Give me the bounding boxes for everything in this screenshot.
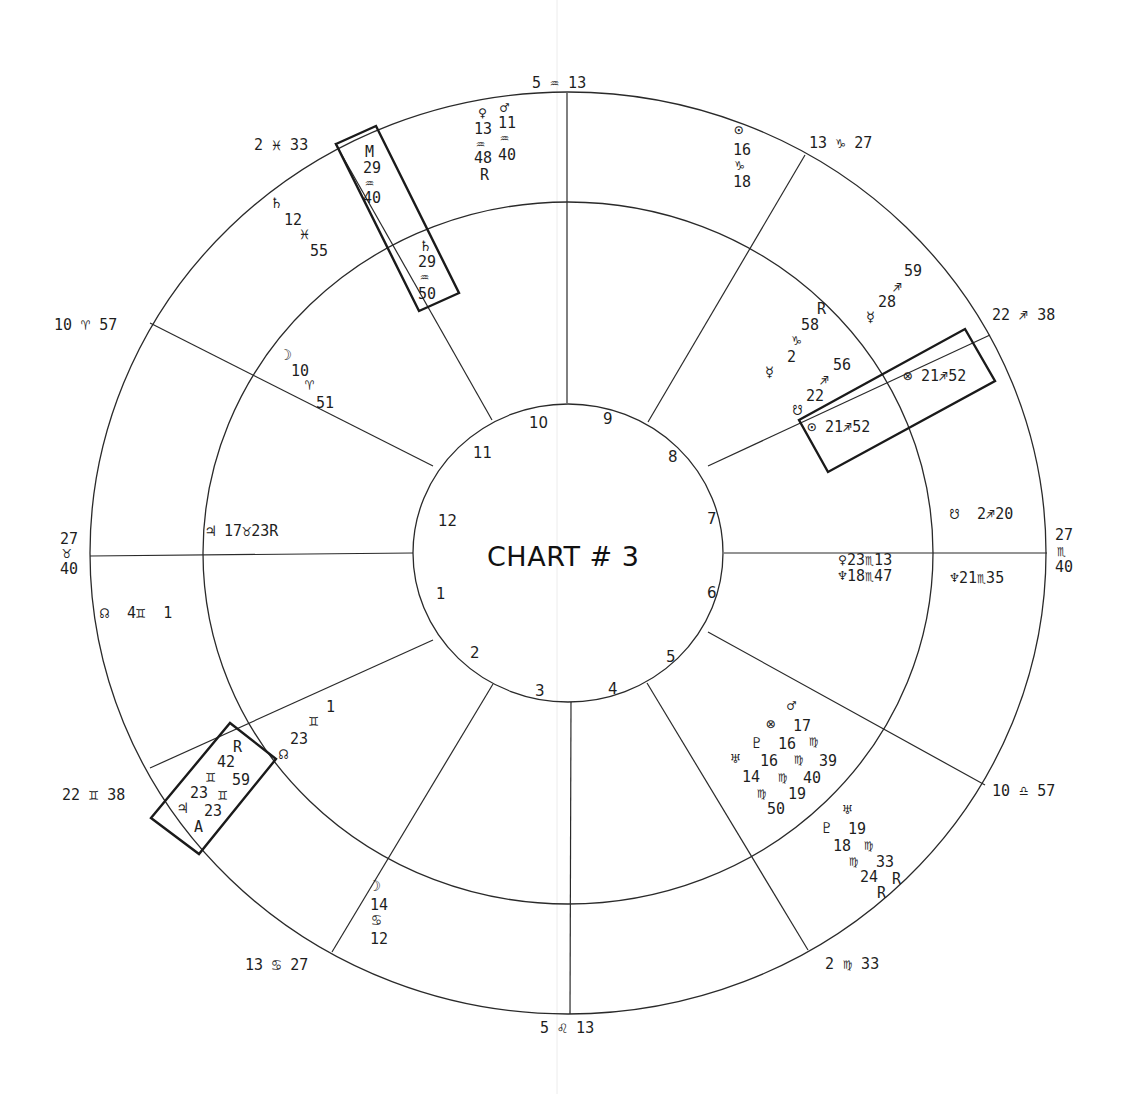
house-number-1: 1 xyxy=(436,585,446,603)
house-number-3: 3 xyxy=(535,682,545,700)
pluto-outer-min: 24 xyxy=(860,868,878,886)
pluto-outer-retro: R xyxy=(877,884,887,902)
saturn-inner-min: 50 xyxy=(418,285,436,303)
uranus-lower-glyph: ♅ xyxy=(731,750,740,768)
asc-point-glyph: A xyxy=(194,818,203,836)
pluto-outer-sign: ♍ xyxy=(849,852,858,870)
sun-inner: ⊙ 21♐52 xyxy=(807,418,870,436)
cusp-line-2 xyxy=(648,155,805,422)
house-number-6: 6 xyxy=(707,584,717,602)
node-inner-min: 56 xyxy=(833,356,851,374)
jupiter-outer-min2: 59 xyxy=(232,771,250,789)
cusp-8: 10 ♈ 57 xyxy=(54,316,117,334)
jupiter-inner: ♃ 17♉23R xyxy=(206,522,279,540)
highlight-boxes xyxy=(151,126,995,854)
neptune-inner: ♆18♏47 xyxy=(838,567,892,585)
fortune-lower-sign: ♍ xyxy=(757,784,766,802)
neptune-outer: ♆21♏35 xyxy=(950,569,1004,587)
uranus-lower-sign: ♍ xyxy=(778,768,787,786)
cusp-12: 22 ♐ 38 xyxy=(992,306,1055,324)
jupiter-asc-box xyxy=(151,723,276,854)
uranus-outer-retro: R xyxy=(892,870,902,888)
venus-min: 48 xyxy=(474,149,492,167)
moon-outer-sign: ♋ xyxy=(372,911,381,929)
mercury-outer-glyph: ☿ xyxy=(866,308,875,326)
uranus-outer-sign: ♍ xyxy=(864,836,873,854)
cusp-line-12 xyxy=(335,143,492,420)
uranus-outer-glyph: ♅ xyxy=(843,801,852,819)
house-number-7: 7 xyxy=(707,510,717,528)
mars-min: 40 xyxy=(498,146,516,164)
north-node-inner-deg: 23 xyxy=(290,730,308,748)
cusp-2: 10 ♎ 57 xyxy=(992,782,1055,800)
north-node-outer: ☊ 4♊ 1 xyxy=(100,604,172,622)
cusp-line-5 xyxy=(708,632,985,785)
sun-outer-min: 18 xyxy=(733,173,751,191)
cusp-mc: 5 ♒ 13 xyxy=(532,74,586,92)
natal-chart-wheel: 123456789101112 5 ♒ 1313 ♑ 2722 ♐ 3827♏4… xyxy=(0,0,1134,1094)
mars-sign: ♒ xyxy=(500,129,509,147)
south-node-outer: ☋ 2♐20 xyxy=(950,505,1013,523)
cusp-line-10 xyxy=(90,553,413,556)
moon-inner-sign: ♈ xyxy=(305,376,314,394)
cusp-5: 13 ♋ 27 xyxy=(245,956,308,974)
saturn-inner-sign: ♒ xyxy=(420,268,429,286)
cusp-line-11 xyxy=(150,323,433,466)
saturn-mc-box xyxy=(336,126,459,311)
house-number-4: 4 xyxy=(608,680,618,698)
venus-retro: R xyxy=(480,166,490,184)
house-number-5: 5 xyxy=(666,648,676,666)
sun-outer-sign: ♑ xyxy=(735,156,744,174)
cusp-line-3 xyxy=(708,335,990,466)
node-inner-deg: 22 xyxy=(806,387,824,405)
pluto-outer-glyph: ♇ xyxy=(822,819,831,837)
saturn-outer-sign: ♓ xyxy=(300,225,309,243)
mc-point-min: 40 xyxy=(363,189,381,207)
north-node-inner-min: 1 xyxy=(326,698,335,716)
saturn-outer-glyph: ♄ xyxy=(272,194,281,212)
mars-lower-glyph: ♂ xyxy=(787,697,796,715)
jupiter-outer-glyph: ♃ xyxy=(178,799,187,817)
house-number-2: 2 xyxy=(470,644,480,662)
cusp-11: 13 ♑ 27 xyxy=(809,134,872,152)
north-node-inner-glyph: ☊ xyxy=(279,745,288,763)
jupiter-outer-min: 42 xyxy=(217,753,235,771)
mercury-outer-deg: 28 xyxy=(878,293,896,311)
mercury-inner-sign: ♑ xyxy=(792,331,801,349)
uranus-lower-deg: 16 xyxy=(760,752,778,770)
cusp-asc-min: 40 xyxy=(1055,558,1073,576)
mars-lower-min: 39 xyxy=(819,752,837,770)
mercury-inner-glyph: ☿ xyxy=(765,363,774,381)
pluto-lower-sign: ♍ xyxy=(794,750,803,768)
mars-lower-sign: ♍ xyxy=(809,732,818,750)
mercury-inner-min: 58 xyxy=(801,316,819,334)
cusp-ic: 5 ♌ 13 xyxy=(540,1019,594,1037)
cusp-6: 22 ♊ 38 xyxy=(62,786,125,804)
node-inner-glyph: ☋ xyxy=(793,401,802,419)
fortune-lower-deg: 19 xyxy=(788,785,806,803)
pluto-lower-glyph: ♇ xyxy=(752,734,761,752)
house-number-12: 12 xyxy=(438,512,457,530)
chart-title: CHART # 3 xyxy=(487,541,639,572)
cusp-desc-min: 40 xyxy=(60,560,78,578)
house-number-9: 9 xyxy=(603,410,613,428)
mercury-inner-deg: 2 xyxy=(787,348,796,366)
cusp-line-7 xyxy=(570,702,571,1014)
fortune-lower-glyph: ⊗ xyxy=(766,715,775,733)
cusp-9: 2 ♓ 33 xyxy=(254,136,308,154)
saturn-outer-min: 55 xyxy=(310,242,328,260)
fortune-lower-min: 50 xyxy=(767,800,785,818)
asc-point-deg: 23 xyxy=(190,784,208,802)
moon-outer-min: 12 xyxy=(370,930,388,948)
house-number-10: 10 xyxy=(529,414,548,432)
cusp-line-9 xyxy=(150,640,433,768)
north-node-inner-sign: ♊ xyxy=(309,712,318,730)
part-fortune-outer: ⊗ 21♐52 xyxy=(903,367,966,385)
house-number-8: 8 xyxy=(668,448,678,466)
moon-inner-min: 51 xyxy=(316,394,334,412)
cusp-line-8 xyxy=(332,684,493,952)
cusp-3: 2 ♍ 33 xyxy=(825,955,879,973)
sun-outer-glyph: ⊙ xyxy=(734,121,743,139)
moon-outer-glyph: ☽ xyxy=(372,877,381,895)
uranus-outer-min: 33 xyxy=(876,853,894,871)
